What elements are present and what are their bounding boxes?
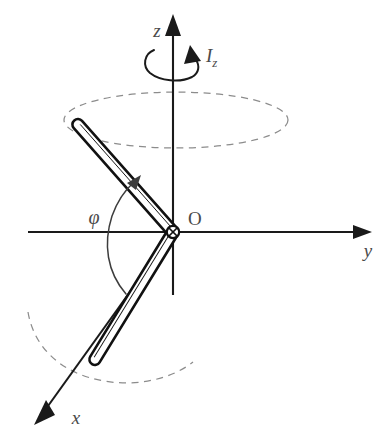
spin-arrowhead [184,45,201,64]
z-axis-arrowhead [165,14,181,36]
upper-rod-body [70,117,179,238]
phi-angle-label: φ [88,206,99,229]
y-axis-label: y [362,240,373,261]
y-axis-arrowhead [353,225,372,239]
z-axis-label: z [152,20,161,41]
lower-rod [87,227,179,367]
origin-pivot-marker [167,226,179,238]
x-axis-arrowhead [34,400,55,425]
lower-rod-highlight [94,232,171,357]
rotating-rod-diagram: y z x Iz φ [0,0,390,438]
phi-angle-arc [107,182,134,294]
figure-root: y z x Iz φ [0,0,390,438]
x-axis-label: x [71,407,81,428]
upper-rod [70,117,179,238]
origin-label: O [188,208,202,229]
moment-of-inertia-label: Iz [205,45,217,70]
